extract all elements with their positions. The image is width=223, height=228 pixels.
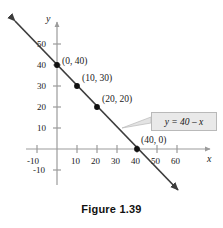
point-label-20-20: (20, 20)	[102, 95, 132, 105]
y-tick-label-20: 20	[37, 103, 46, 112]
y-tick-label-10: 10	[37, 124, 46, 133]
y-axis-name: y	[46, 14, 50, 24]
y-axis	[53, 22, 61, 185]
point-label-0-40: (0, 40)	[62, 57, 87, 67]
y-tick-label-50: 50	[37, 40, 46, 49]
x-tick-label-30: 30	[111, 157, 120, 166]
data-point-20-20	[94, 104, 100, 110]
equation-callout-text: y = 40 – x	[165, 117, 204, 127]
x-tick-label-10: 10	[71, 157, 80, 166]
x-tick-label-50: 50	[151, 157, 160, 166]
y-tick-label-30: 30	[37, 82, 46, 91]
data-point-40-0	[134, 146, 140, 152]
data-point-10-30	[74, 83, 80, 89]
figure-container: 50 40 30 20 10 -10 -10 10 20 30 40 50 60…	[0, 0, 223, 228]
equation-callout-box: y = 40 – x	[151, 112, 217, 131]
callout-leader	[122, 117, 151, 128]
x-tick-label-60: 60	[171, 157, 180, 166]
x-axis-name: x	[207, 154, 211, 164]
point-label-40-0: (40, 0)	[141, 136, 166, 146]
x-axis	[26, 145, 210, 153]
figure-caption: Figure 1.39	[0, 203, 223, 215]
x-tick-label-neg10: -10	[27, 157, 39, 166]
data-point-0-40	[54, 62, 60, 68]
y-tick-label-neg10: -10	[33, 166, 45, 175]
x-tick-label-20: 20	[91, 157, 100, 166]
point-label-10-30: (10, 30)	[82, 74, 112, 84]
y-tick-label-40: 40	[37, 61, 46, 70]
x-tick-label-40: 40	[131, 157, 140, 166]
